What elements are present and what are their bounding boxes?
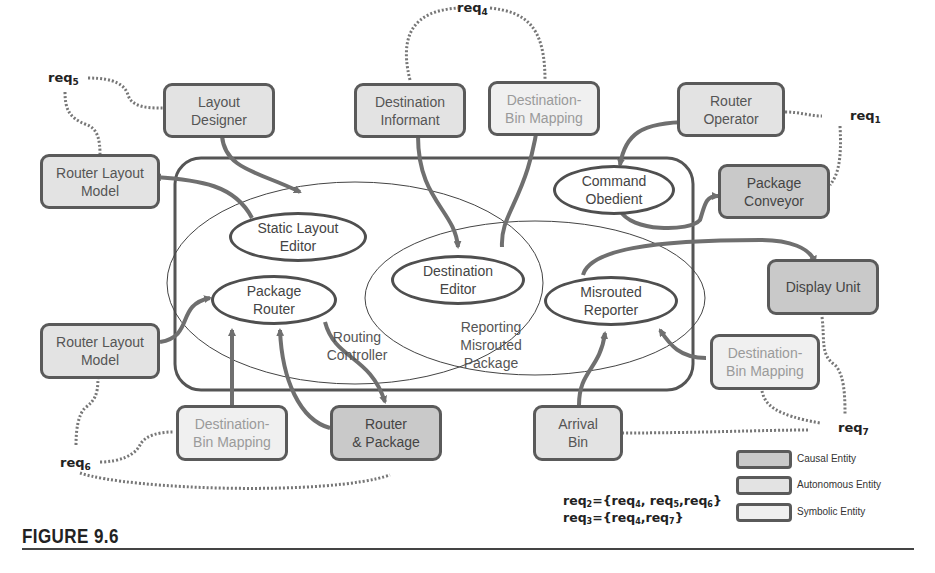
entity-router-layout-model-top[interactable]: Router Layout Model — [40, 154, 160, 209]
legend-label-causal: Causal Entity — [797, 453, 856, 464]
entity-router-operator[interactable]: Router Operator — [677, 82, 785, 137]
req-label-5: req5 — [48, 70, 79, 87]
req-label-7: req7 — [838, 420, 869, 437]
entity-router-layout-model-bottom[interactable]: Router Layout Model — [40, 323, 160, 379]
req-label-1: req1 — [850, 108, 881, 125]
entity-destination-bin-mapping-bottom[interactable]: Destination- Bin Mapping — [176, 405, 288, 461]
entity-layout-designer[interactable]: Layout Designer — [163, 83, 275, 138]
caption-divider — [22, 548, 914, 550]
legend-swatch-causal — [736, 450, 792, 469]
legend-swatch-symbolic — [736, 503, 792, 522]
group-label-reporting-misrouted-package: Reporting Misrouted Package — [436, 318, 546, 372]
legend-label-autonomous: Autonomous Entity — [797, 479, 881, 490]
entity-destination-bin-mapping-top[interactable]: Destination- Bin Mapping — [488, 81, 600, 136]
entity-arrival-bin[interactable]: Arrival Bin — [533, 405, 623, 461]
entity-display-unit[interactable]: Display Unit — [767, 259, 879, 315]
function-destination-editor[interactable]: Destination Editor — [391, 255, 525, 305]
entity-destination-informant[interactable]: Destination Informant — [354, 83, 466, 138]
entity-package-conveyor[interactable]: Package Conveyor — [718, 164, 830, 219]
group-label-routing-controller: Routing Controller — [302, 328, 412, 364]
formula-req3: req3={req4,req7} — [563, 509, 684, 530]
req-label-4: req4 — [457, 0, 488, 17]
function-command-obedient[interactable]: Command Obedient — [553, 165, 675, 215]
req-label-6: req6 — [60, 455, 91, 472]
diagram-canvas: Layout Designer Destination Informant De… — [0, 0, 935, 573]
entity-destination-bin-mapping-right[interactable]: Destination- Bin Mapping — [710, 334, 820, 390]
function-package-router[interactable]: Package Router — [211, 275, 337, 325]
entity-router-and-package[interactable]: Router & Package — [330, 405, 442, 461]
figure-caption: FIGURE 9.6 — [22, 525, 119, 548]
legend-swatch-autonomous — [736, 476, 792, 495]
legend-label-symbolic: Symbolic Entity — [797, 506, 865, 517]
function-misrouted-reporter[interactable]: Misrouted Reporter — [544, 276, 678, 326]
function-static-layout-editor[interactable]: Static Layout Editor — [229, 212, 367, 262]
